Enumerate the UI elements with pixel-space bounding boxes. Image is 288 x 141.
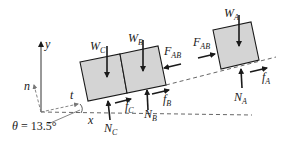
block-c-body: [80, 54, 127, 101]
x-axis-label: x: [87, 113, 94, 127]
weight-b-label: WB: [128, 31, 143, 47]
y-axis-label: y: [44, 37, 51, 51]
t-axis-dashed: [41, 104, 78, 112]
normal-c-arrow: [108, 101, 110, 120]
t-axis-label: t: [70, 88, 74, 102]
normal-b-label: NB: [143, 107, 157, 123]
normal-a-label: NA: [233, 90, 247, 106]
contact-ab-on-b-label: FAB: [163, 44, 181, 60]
friction-b-arrow: [152, 90, 169, 94]
normal-c-label: NC: [103, 121, 118, 137]
contact-ab-on-a-label: FAB: [192, 35, 210, 51]
contact-ab-on-a-arrow: [198, 54, 215, 58]
weight-a-label: WA: [224, 6, 239, 22]
angle-arc: [80, 104, 82, 113]
block-a: WA FAB NA fA: [192, 6, 270, 106]
friction-a-label: fA: [262, 70, 270, 86]
n-axis-dashed: [34, 85, 41, 112]
block-a-body: [213, 22, 259, 69]
n-axis-label: n: [24, 79, 30, 93]
friction-b-label: fB: [163, 92, 171, 108]
weight-c-label: WC: [90, 39, 106, 55]
normal-a-arrow: [241, 69, 242, 88]
friction-c-label: fC: [125, 99, 134, 115]
friction-c-arrow: [115, 99, 131, 103]
angle-label: θ = 13.5°: [12, 119, 57, 133]
free-body-diagram: y x n t θ = 13.5° WC NC fC WB FAB NB f: [0, 0, 288, 141]
contact-ab-on-b-arrow: [164, 64, 181, 68]
